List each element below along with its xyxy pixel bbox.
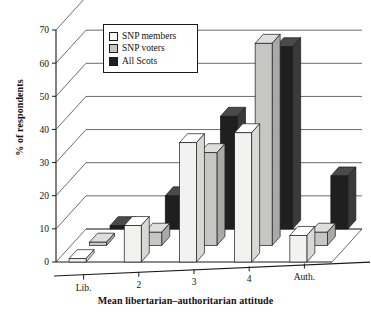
- legend-swatch-icon: [109, 44, 118, 53]
- bar: [179, 134, 204, 262]
- x-tick-label: 3: [192, 277, 197, 287]
- x-tick-label: 2: [136, 280, 141, 290]
- bar: [235, 124, 260, 262]
- legend-label: SNP members: [122, 31, 176, 42]
- x-tick-label: Lib.: [76, 283, 92, 293]
- y-tick-label: 30: [40, 158, 50, 168]
- bar: [331, 167, 356, 229]
- bar: [69, 250, 94, 262]
- y-tick-label: 50: [40, 92, 50, 102]
- legend-item-snp-voters: SNP voters: [109, 43, 192, 54]
- legend-label: All Scots: [122, 56, 157, 67]
- y-tick-label: 60: [40, 59, 50, 69]
- x-tick-label: Auth.: [294, 272, 315, 282]
- chart-container: % of respondents Mean libertarian–author…: [0, 0, 371, 318]
- y-tick-label: 10: [40, 224, 50, 234]
- y-tick-labels: 010203040506070: [40, 25, 50, 267]
- y-tick-label: 0: [44, 257, 49, 267]
- chart-legend: SNP members SNP voters All Scots: [103, 24, 198, 73]
- y-tick-label: 20: [40, 191, 50, 201]
- legend-label: SNP voters: [122, 43, 165, 54]
- y-tick-label: 40: [40, 125, 50, 135]
- bar: [290, 226, 315, 262]
- legend-swatch-icon: [109, 32, 118, 41]
- legend-item-all-scots: All Scots: [109, 56, 192, 67]
- legend-item-snp-members: SNP members: [109, 31, 192, 42]
- x-tick-label: 4: [247, 274, 252, 284]
- legend-swatch-icon: [109, 57, 118, 66]
- bar: [124, 217, 149, 262]
- y-tick-label: 70: [40, 25, 50, 35]
- bar: [90, 233, 115, 245]
- x-tick-labels: Lib.234Auth.: [76, 272, 315, 293]
